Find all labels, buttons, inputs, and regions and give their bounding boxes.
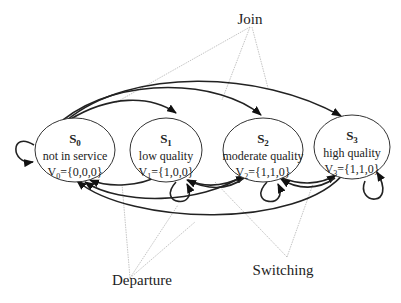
- svg-text:not in service: not in service: [43, 149, 108, 163]
- departure-label: Departure: [112, 272, 172, 288]
- state-s0: S0 not in service V0={0,0,0}: [35, 118, 115, 182]
- svg-text:low quality: low quality: [139, 149, 193, 163]
- state-s1: S1 low quality V1={1,0,0}: [130, 118, 202, 182]
- svg-text:V1={1,0,0}: V1={1,0,0}: [139, 165, 194, 181]
- svg-text:V3={1,1,0}: V3={1,1,0}: [325, 162, 380, 178]
- state-s3: S3 high quality V3={1,1,0}: [314, 115, 390, 179]
- switching-label: Switching: [253, 262, 314, 278]
- state-diagram: S0 not in service V0={0,0,0} S1 low qual…: [0, 0, 401, 303]
- join-leaders: [115, 27, 268, 103]
- switching-leaders: [215, 182, 313, 257]
- state-s2: S2 moderate quality V2={1,1,0}: [223, 118, 304, 182]
- join-label: Join: [237, 11, 263, 27]
- svg-text:high quality: high quality: [323, 146, 381, 160]
- departure-edges: [77, 172, 345, 215]
- join-edges: [63, 81, 341, 120]
- svg-text:V0={0,0,0}: V0={0,0,0}: [48, 165, 103, 181]
- svg-text:V2={1,1,0}: V2={1,1,0}: [236, 165, 291, 181]
- svg-text:moderate quality: moderate quality: [223, 149, 304, 163]
